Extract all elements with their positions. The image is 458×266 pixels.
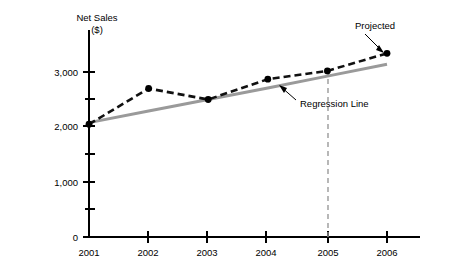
data-point-2004 (264, 76, 271, 83)
x-tick-label-2006: 2006 (376, 247, 397, 258)
data-point-2006 (384, 50, 391, 57)
data-point-2005 (324, 68, 331, 75)
chart-canvas: Net Sales ($) 3,000 2,000 1,000 0 2001 2… (0, 0, 458, 266)
regression-line (89, 64, 387, 122)
x-tick-label-2003: 2003 (196, 247, 217, 258)
annotation-projected-label: Projected (355, 20, 395, 31)
net-sales-chart: Net Sales ($) 3,000 2,000 1,000 0 2001 2… (0, 0, 458, 266)
y-tick-label-0: 0 (73, 232, 78, 243)
x-tick-label-2002: 2002 (137, 247, 158, 258)
y-axis-title-line2: ($) (91, 24, 103, 35)
data-point-2001 (86, 121, 93, 128)
x-tick-label-2005: 2005 (317, 247, 338, 258)
y-tick-label-1000: 1,000 (54, 177, 78, 188)
y-tick-label-3000: 3,000 (54, 67, 78, 78)
x-tick-label-2004: 2004 (255, 247, 276, 258)
data-point-markers (86, 50, 391, 128)
annotation-regression-label: Regression Line (300, 98, 369, 109)
chart-axes (89, 30, 420, 237)
data-point-2003 (205, 96, 212, 103)
x-tick-label-2001: 2001 (78, 247, 99, 258)
data-point-2002 (145, 85, 152, 92)
y-axis-title-line1: Net Sales (76, 12, 117, 23)
y-tick-label-2000: 2,000 (54, 121, 78, 132)
